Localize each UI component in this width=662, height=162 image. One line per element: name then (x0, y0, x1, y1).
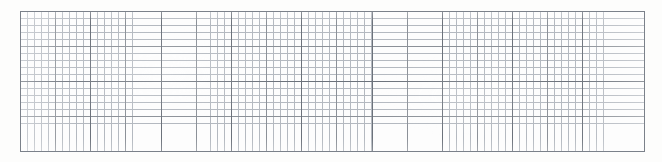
grid-paper-sheet (20, 11, 645, 152)
major-gridlines (20, 11, 645, 152)
scan-haze-overlay (20, 11, 645, 152)
grid-border-frame (20, 11, 645, 152)
medium-gridlines (20, 11, 645, 152)
scan-warp-overlay (20, 11, 645, 152)
graph-paper-page (0, 0, 662, 162)
minor-gridlines (20, 11, 645, 152)
